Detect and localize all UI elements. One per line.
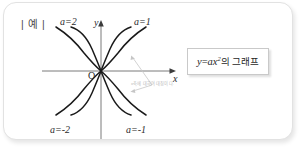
curve-label-a-2: a=2 [60,16,77,27]
curve-label-a-minus-2: a=-2 [50,124,70,135]
example-card: | 예 | [3,2,293,140]
curve-a-1-right [101,27,146,71]
coordinate-plot: a=2 a=1 a=-2 a=-1 y x O [34,11,184,143]
curve-a-1-left [56,27,101,71]
curve-a-2-right [101,27,131,71]
formula-suffix: 의 그래프 [221,56,260,67]
curve-a-minus-2-left [71,71,101,115]
y-axis-label: y [94,17,98,28]
curve-a-minus-1-right [101,71,146,115]
symmetry-pointer-lower-arrow [130,89,135,93]
curve-a-minus-2-right [101,71,131,115]
formula-callout: y=ax2의 그래프 [187,48,269,75]
symmetry-annotation: x축에 대하여 대칭이다. [131,81,187,87]
formula-coefficient: ax [208,56,218,67]
curve-label-a-minus-1: a=-1 [126,124,146,135]
curve-a-2-left [71,27,101,71]
curve-label-a-1: a=1 [134,16,151,27]
origin-label: O [88,70,95,81]
y-axis-arrow [98,20,104,27]
